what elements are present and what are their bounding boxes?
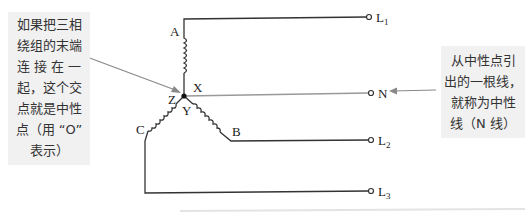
label-c: C bbox=[136, 122, 145, 137]
terminal-n bbox=[369, 91, 374, 96]
label-l3: L3 bbox=[378, 184, 391, 201]
right-arrow bbox=[389, 88, 436, 95]
label-a: A bbox=[170, 24, 180, 39]
callout-line: 从中性点引 bbox=[443, 50, 523, 71]
neutral-wire bbox=[184, 93, 369, 96]
callout-line: 线（N 线） bbox=[443, 113, 523, 134]
terminal-l2 bbox=[369, 138, 374, 143]
label-x: X bbox=[193, 80, 203, 95]
phase-a-winding bbox=[184, 17, 367, 96]
terminal-l3 bbox=[369, 189, 374, 194]
label-z: Z bbox=[168, 92, 176, 107]
callout-line: 如果把三相 bbox=[10, 14, 88, 35]
label-n: N bbox=[378, 86, 388, 101]
neutral-point-callout: 如果把三相 绕组的末端 连 接 在 一 起，这个交 点就是中性 点（用 “O” … bbox=[8, 12, 90, 165]
callout-line: 出的一根线， bbox=[443, 71, 523, 92]
terminal-l1 bbox=[367, 15, 372, 20]
label-b: B bbox=[232, 124, 241, 139]
callout-line: 起，这个交 bbox=[10, 77, 88, 98]
neutral-wire-callout: 从中性点引 出的一根线， 就称为中性 线（N 线） bbox=[441, 46, 525, 138]
phase-c-winding bbox=[145, 96, 369, 193]
label-y: Y bbox=[182, 103, 192, 118]
callout-line: 点就是中性 bbox=[10, 98, 88, 119]
callout-line: 连 接 在 一 bbox=[10, 56, 88, 77]
callout-line: 点（用 “O” bbox=[10, 119, 88, 140]
callout-line: 绕组的末端 bbox=[10, 35, 88, 56]
left-arrow bbox=[87, 57, 181, 93]
neutral-point bbox=[181, 93, 186, 98]
callout-line: 表示） bbox=[10, 140, 88, 161]
bottom-divider bbox=[180, 209, 525, 211]
label-l1: L1 bbox=[376, 10, 388, 27]
callout-line: 就称为中性 bbox=[443, 92, 523, 113]
label-l2: L2 bbox=[378, 133, 390, 150]
phase-b-winding bbox=[184, 96, 369, 141]
